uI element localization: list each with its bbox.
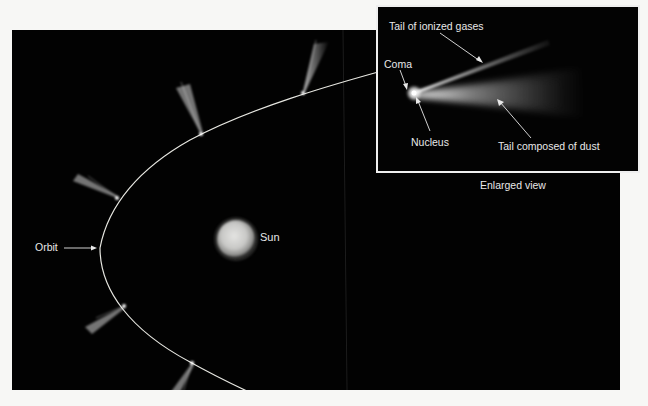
comet-1	[301, 40, 329, 95]
sun	[214, 217, 258, 261]
comet-5	[168, 361, 194, 398]
sun-label: Sun	[260, 232, 280, 243]
orbit-arrow	[64, 246, 97, 251]
nucleus-label: Nucleus	[411, 137, 449, 148]
ion-tail-label: Tail of ionized gases	[389, 21, 484, 32]
coma-label: Coma	[384, 59, 412, 70]
nucleus	[412, 91, 417, 96]
ion-tail-arrow	[440, 33, 480, 61]
enlarged-view-caption: Enlarged view	[480, 180, 546, 191]
dust-tail-label: Tail composed of dust	[498, 141, 600, 152]
nucleus-arrow	[418, 101, 430, 131]
orbit-label: Orbit	[35, 242, 58, 253]
comet-4	[85, 304, 126, 334]
comet-3	[73, 174, 119, 200]
scan-artifact-line	[343, 30, 347, 390]
comet-2	[176, 82, 203, 136]
enlarged-view-inset: Tail of ionized gases Coma Nucleus Tail …	[376, 5, 640, 173]
